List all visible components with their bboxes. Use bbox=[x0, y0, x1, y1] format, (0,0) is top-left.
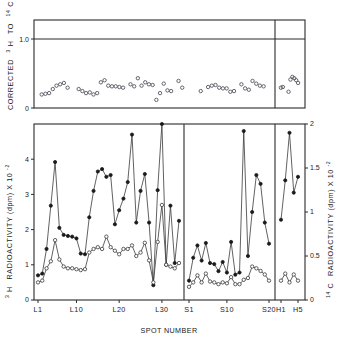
s-section-3h-marker bbox=[217, 270, 220, 273]
ylabel-c: C bbox=[6, 1, 15, 7]
ylabel-left-sup: 3 bbox=[4, 295, 10, 299]
l-section-3h-marker bbox=[122, 197, 125, 200]
ylabel-h-sup: 3 bbox=[5, 49, 11, 53]
main-left-ytick-group: 01234 bbox=[25, 156, 34, 304]
main-right-ytick-label-1: 1 bbox=[310, 208, 314, 215]
l-section-14c-marker bbox=[139, 251, 142, 254]
s-section-14c-marker bbox=[221, 281, 224, 284]
s-section-3h-marker bbox=[204, 241, 207, 244]
l-section-3h-marker bbox=[88, 216, 91, 219]
s-section-3h-marker bbox=[234, 273, 237, 276]
h-section-14c-marker bbox=[288, 281, 291, 284]
l-section-3h-marker bbox=[62, 233, 65, 236]
l-section-3h-marker bbox=[45, 247, 48, 250]
main-left-ytick-label-2: 2 bbox=[25, 226, 29, 233]
l-section-14c-marker bbox=[156, 240, 159, 243]
l-section-14c-marker bbox=[147, 259, 150, 262]
s-section-3h-marker bbox=[251, 210, 254, 213]
l-section-3h-marker bbox=[118, 209, 121, 212]
l-section-14c-marker bbox=[169, 265, 172, 268]
main-xtick-label-L10: L10 bbox=[70, 305, 83, 314]
l-section-14c-marker bbox=[122, 247, 125, 250]
l-section-3h-marker bbox=[156, 189, 159, 192]
l-section-3h-marker bbox=[105, 175, 108, 178]
l-section-14c-marker bbox=[143, 241, 146, 244]
l-section-3h-marker bbox=[130, 133, 133, 136]
s-section-3h-marker bbox=[208, 261, 211, 264]
main-right-ytick-label-0.5: 0.5 bbox=[310, 252, 320, 259]
l-section-3h-marker bbox=[66, 234, 69, 237]
l-section-14c-marker bbox=[113, 249, 116, 252]
main-panel-ylabel-left: 3 H RADIOACTIVITY (dpm) X 10 -2 bbox=[2, 164, 14, 298]
chart-svg: 1.0 0 CORRECTED 3 H TO 14 C RATIO bbox=[0, 0, 339, 344]
main-xtick-label-H1: H1 bbox=[276, 305, 286, 314]
main-xtick-label-S10: S10 bbox=[220, 305, 234, 314]
svg-text:CORRECTED 3: CORRECTED 3 H TO 14 C RATIO bbox=[3, 0, 15, 110]
l-section-3h-marker bbox=[71, 235, 74, 238]
l-section-14c-marker bbox=[83, 268, 86, 271]
ylabel-c-sup: 14 bbox=[5, 9, 11, 16]
s-section-14c-marker bbox=[234, 282, 237, 285]
s-section-3h-marker bbox=[267, 242, 270, 245]
svg-text:14 C RADIO: 14 C RADIOACTIVITY (dpm) X 10 -2 bbox=[323, 161, 335, 298]
l-section-14c-marker bbox=[53, 238, 56, 241]
ylabel-left-h: H bbox=[5, 286, 14, 292]
s-section-3h-marker bbox=[213, 263, 216, 266]
main-xtick-label-L30: L30 bbox=[155, 305, 168, 314]
l-section-3h-marker bbox=[100, 167, 103, 170]
l-section-3h-marker bbox=[143, 172, 146, 175]
h-section-14c-marker bbox=[279, 279, 282, 282]
s-section-14c-marker bbox=[238, 282, 241, 285]
l-section-3h-marker bbox=[75, 237, 78, 240]
s-section-14c-marker bbox=[208, 280, 211, 283]
l-section-3h-marker bbox=[147, 221, 150, 224]
main-xtick-label-L20: L20 bbox=[113, 305, 126, 314]
s-section-3h-marker bbox=[255, 173, 258, 176]
main-right-ytick-label-1.5: 1.5 bbox=[310, 164, 320, 171]
main-left-ytick-label-3: 3 bbox=[25, 191, 29, 198]
s-section-14c-marker bbox=[263, 273, 266, 276]
s-section-3h-marker bbox=[230, 240, 233, 243]
h-section-3h-marker bbox=[288, 131, 291, 134]
l-section-14c-marker bbox=[109, 246, 112, 249]
l-section-14c-marker bbox=[105, 235, 108, 238]
l-section-14c-marker bbox=[152, 281, 155, 284]
l-section-14c-marker bbox=[130, 244, 133, 247]
l-section-14c-marker bbox=[88, 251, 91, 254]
l-section-3h-marker bbox=[135, 221, 138, 224]
svg-text:3 H RADIOA: 3 H RADIOACTIVITY (dpm) X 10 -2 bbox=[2, 164, 14, 298]
l-section-3h-marker bbox=[173, 261, 176, 264]
l-section-3h-marker bbox=[113, 223, 116, 226]
main-left-ytick-label-0: 0 bbox=[25, 296, 29, 303]
s-section-3h-marker bbox=[238, 271, 241, 274]
ylabel-right-sup: 14 bbox=[325, 291, 331, 298]
top-panel-frame bbox=[34, 20, 305, 108]
s-section-3h-marker bbox=[221, 260, 224, 263]
l-section-3h-marker bbox=[96, 170, 99, 173]
s-section-3h-marker bbox=[192, 256, 195, 259]
l-section-14c-marker bbox=[177, 261, 180, 264]
main-right-ytick-label-0: 0 bbox=[310, 296, 314, 303]
main-left-ytick-label-1: 1 bbox=[25, 261, 29, 268]
s-section-3h-marker bbox=[246, 254, 249, 257]
main-panel-group: 01234 00.511.52 L1L10L20L30S1S10S20H1H5 … bbox=[2, 120, 335, 314]
s-section-14c-marker bbox=[187, 285, 190, 288]
l-section-14c-marker bbox=[75, 268, 78, 271]
ylabel-right-c: C bbox=[326, 283, 335, 289]
s-section-14c-marker bbox=[267, 279, 270, 282]
ylabel-right-exp: -2 bbox=[325, 161, 331, 167]
s-section-3h-marker bbox=[263, 221, 266, 224]
l-section-3h-marker bbox=[139, 189, 142, 192]
s-section-14c-marker bbox=[204, 272, 207, 275]
h-section-3h-marker bbox=[279, 218, 282, 221]
main-xtick-label-S20: S20 bbox=[262, 305, 276, 314]
s-section-14c-marker bbox=[246, 276, 249, 279]
l-section-14c-marker bbox=[173, 267, 176, 270]
l-section-14c-marker bbox=[160, 203, 163, 206]
l-section-14c-marker bbox=[96, 246, 99, 249]
ylabel-corrected: CORRECTED bbox=[6, 59, 15, 110]
main-left-ytick-label-4: 4 bbox=[25, 156, 29, 163]
main-xtick-label-L1: L1 bbox=[34, 305, 43, 314]
x-axis-title: SPOT NUMBER bbox=[141, 326, 198, 335]
l-section-14c-marker bbox=[58, 258, 61, 261]
